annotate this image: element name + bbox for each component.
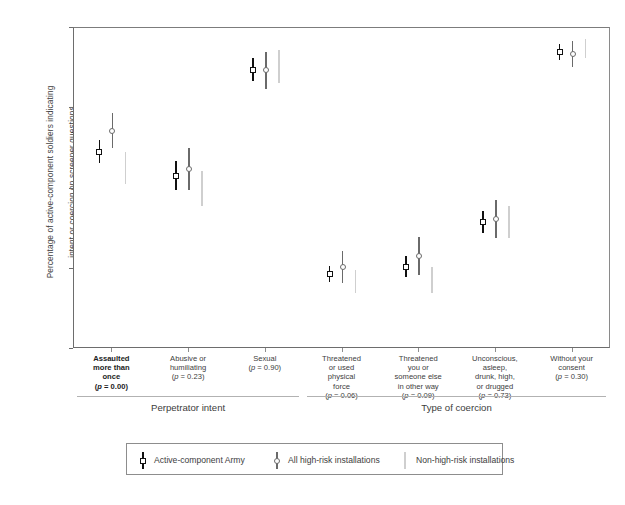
y-axis-title: Percentage of active-component soldiers … <box>34 32 78 332</box>
x-category-label-line: Abusive or <box>150 354 227 363</box>
legend-item-0[interactable]: Active-component Army <box>137 444 245 476</box>
x-category-pvalue: (p = 0.00) <box>73 382 150 391</box>
legend-label: All high-risk installations <box>288 455 380 465</box>
x-category-label-line: Threatened <box>380 354 457 363</box>
x-category-label-3: Threatenedor usedphysicalforce(p = 0.06) <box>303 354 380 400</box>
x-category-label-line: once <box>73 372 150 381</box>
x-category-label-line: someone else <box>380 372 457 381</box>
x-category-pvalue: (p = 0.30) <box>533 372 610 381</box>
x-category-label-line: or drugged <box>457 382 534 391</box>
x-category-label-line: Unconscious, <box>457 354 534 363</box>
error-bar <box>125 152 127 184</box>
group-type-of-coercion-label: Type of coercion <box>307 402 606 413</box>
legend-item-2[interactable]: Non-high-risk installations <box>399 444 514 476</box>
x-category-label-4: Threatenedyou orsomeone elsein other way… <box>380 354 457 400</box>
x-category-label-5: Unconscious,asleep,drunk, high,or drugge… <box>457 354 534 400</box>
group-perpetrator-intent-line <box>77 396 299 397</box>
data-point <box>250 67 256 73</box>
x-category-label-line: physical <box>303 372 380 381</box>
x-tick-mark-1 <box>188 348 189 352</box>
x-category-label-2: Sexual(p = 0.90) <box>226 354 303 372</box>
x-tick-mark-2 <box>265 348 266 352</box>
x-tick-mark-0 <box>111 348 112 352</box>
x-category-label-6: Without yourconsent(p = 0.30) <box>533 354 610 382</box>
legend-item-1[interactable]: All high-risk installations <box>271 444 380 476</box>
data-point <box>557 49 563 55</box>
x-category-label-line: consent <box>533 363 610 372</box>
x-category-label-0: Assaultedmore thanonce(p = 0.00) <box>73 354 150 391</box>
x-category-label-line: more than <box>73 363 150 372</box>
data-point <box>493 216 499 222</box>
data-point <box>327 271 333 277</box>
figure-root: Percentage of active-component soldiers … <box>0 0 625 505</box>
x-category-pvalue: (p = 0.23) <box>150 372 227 381</box>
data-point <box>340 264 346 270</box>
error-bar <box>431 267 433 293</box>
x-category-label-line: Threatened <box>303 354 380 363</box>
group-perpetrator-intent-label: Perpetrator intent <box>77 402 299 413</box>
x-category-label-line: asleep, <box>457 363 534 372</box>
data-point <box>173 173 179 179</box>
legend-label: Active-component Army <box>154 455 245 465</box>
legend-marker-icon <box>137 452 148 469</box>
data-point <box>403 264 409 270</box>
x-category-label-line: you or <box>380 363 457 372</box>
y-axis-title-line1: Percentage of active-component soldiers … <box>45 86 55 279</box>
data-point <box>416 253 422 259</box>
x-category-label-1: Abusive orhumiliating(p = 0.23) <box>150 354 227 382</box>
data-point <box>96 149 102 155</box>
data-point <box>109 128 115 134</box>
legend-marker-icon <box>271 452 282 469</box>
x-category-label-line: drunk, high, <box>457 372 534 381</box>
data-point <box>186 166 192 172</box>
x-category-label-line: Assaulted <box>73 354 150 363</box>
group-type-of-coercion-line <box>307 396 606 397</box>
x-tick-mark-3 <box>342 348 343 352</box>
x-category-pvalue: (p = 0.90) <box>226 363 303 372</box>
x-tick-mark-4 <box>418 348 419 352</box>
x-tick-mark-5 <box>495 348 496 352</box>
x-tick-mark-6 <box>572 348 573 352</box>
x-category-label-line: in other way <box>380 382 457 391</box>
data-point <box>480 219 486 225</box>
plot-area <box>73 27 610 348</box>
x-category-label-line: Sexual <box>226 354 303 363</box>
error-bar <box>355 270 357 292</box>
legend-marker-icon <box>399 452 410 469</box>
legend: Active-component ArmyAll high-risk insta… <box>126 443 503 475</box>
x-category-label-line: Without your <box>533 354 610 363</box>
x-category-label-line: or used <box>303 363 380 372</box>
data-point <box>263 67 269 73</box>
error-bar <box>278 50 280 82</box>
x-category-label-line: humiliating <box>150 363 227 372</box>
y-tick-mark-0 <box>69 348 73 349</box>
x-category-label-line: force <box>303 382 380 391</box>
error-bar <box>201 171 203 206</box>
error-bar <box>508 206 510 238</box>
legend-label: Non-high-risk installations <box>416 455 514 465</box>
data-point <box>570 51 576 57</box>
error-bar <box>585 39 587 58</box>
